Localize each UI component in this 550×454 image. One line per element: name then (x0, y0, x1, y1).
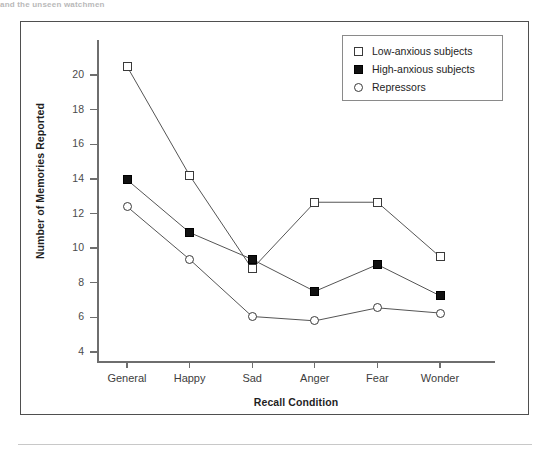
legend-square-filled-icon (354, 65, 363, 74)
chart-legend: Low-anxious subjectsHigh-anxious subject… (342, 35, 503, 101)
legend-item: High-anxious subjects (354, 61, 502, 78)
legend-square-open-icon (354, 47, 363, 56)
page-caption-strip: and the unseen watchmen (0, 0, 250, 9)
legend-item: Low-anxious subjects (354, 43, 502, 60)
legend-item: Repressors (354, 79, 502, 96)
legend-circle-open-icon (354, 83, 363, 92)
legend-item-label: Low-anxious subjects (372, 46, 472, 57)
page-bottom-rule (18, 444, 532, 445)
legend-item-label: High-anxious subjects (372, 64, 475, 75)
legend-item-label: Repressors (372, 82, 426, 93)
